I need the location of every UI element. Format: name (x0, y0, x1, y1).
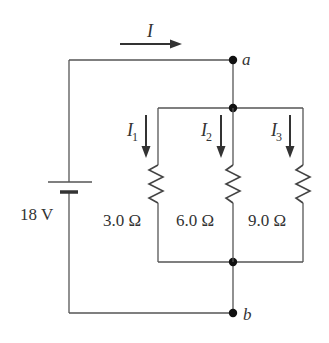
resistor-3 (296, 165, 310, 203)
current-arrow-1 (142, 146, 151, 158)
battery-voltage-label: 18 V (20, 205, 54, 224)
node-a (229, 56, 237, 64)
current-arrow-2 (217, 146, 226, 158)
current-label-1: I1 (126, 120, 138, 144)
branch-2 (217, 108, 241, 262)
current-arrow-3 (286, 146, 295, 158)
node-b-label: b (243, 305, 252, 324)
outer-wires (69, 60, 233, 313)
circuit-diagram: 18 V I a b I1 3.0 Ω I2 6.0 Ω (0, 0, 329, 343)
resistor-1 (149, 165, 163, 203)
resistance-label-1: 3.0 Ω (103, 211, 141, 230)
resistance-label-3: 9.0 Ω (248, 211, 286, 230)
node-a-label: a (242, 50, 251, 69)
resistance-label-2: 6.0 Ω (176, 211, 214, 230)
branch-1 (142, 108, 164, 262)
battery (48, 182, 92, 192)
current-label-2: I2 (200, 120, 212, 144)
resistor-2 (226, 165, 240, 203)
total-current-label: I (146, 21, 154, 41)
branch-3 (286, 108, 311, 262)
current-label-3: I3 (270, 120, 282, 144)
node-b (229, 309, 237, 317)
